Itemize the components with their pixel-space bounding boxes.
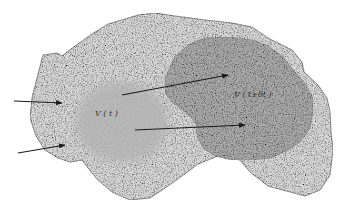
label-volume-t-dt: V ( t+δt )	[234, 90, 272, 99]
label-volume-t: V ( t )	[95, 109, 118, 118]
control-volume-diagram: V ( t ) V ( t+δt )	[0, 0, 351, 221]
volume-t-region	[76, 82, 168, 162]
